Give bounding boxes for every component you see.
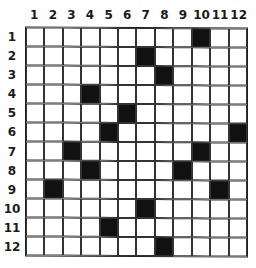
empty-cell (192, 123, 210, 142)
empty-cell (100, 237, 118, 256)
row-label: 7 (0, 142, 24, 161)
empty-cell (192, 180, 210, 199)
row-label: 8 (0, 161, 24, 180)
filled-cell (81, 85, 99, 104)
empty-cell (210, 218, 228, 237)
empty-cell (192, 237, 210, 256)
empty-cell (100, 161, 118, 180)
empty-cell (81, 218, 99, 237)
empty-cell (136, 28, 154, 47)
empty-cell (118, 142, 136, 161)
empty-cell (229, 142, 247, 161)
empty-cell (210, 85, 228, 104)
column-label: 11 (211, 8, 230, 24)
empty-cell (118, 66, 136, 85)
filled-cell (100, 218, 118, 237)
empty-cell (155, 47, 173, 66)
column-label: 1 (25, 8, 44, 24)
filled-cell (192, 142, 210, 161)
empty-cell (155, 161, 173, 180)
empty-cell (192, 218, 210, 237)
filled-cell (210, 180, 228, 199)
empty-cell (26, 198, 44, 217)
empty-cell (210, 161, 228, 180)
empty-cell (26, 122, 44, 141)
column-label: 9 (174, 8, 193, 24)
empty-cell (63, 47, 81, 66)
empty-cell (63, 123, 81, 142)
filled-cell (155, 237, 173, 256)
empty-cell (44, 218, 62, 237)
row-label: 4 (0, 85, 24, 104)
row-label: 3 (0, 65, 24, 84)
row-label: 11 (0, 219, 24, 238)
empty-cell (81, 47, 99, 66)
empty-cell (173, 218, 191, 237)
empty-cell (44, 66, 62, 85)
empty-cell (63, 28, 81, 47)
empty-cell (63, 104, 81, 123)
empty-cell (136, 180, 154, 199)
empty-cell (118, 123, 136, 142)
empty-cell (136, 85, 154, 104)
empty-cell (63, 66, 81, 85)
empty-cell (229, 218, 247, 237)
empty-cell (192, 66, 210, 85)
empty-cell (63, 180, 81, 199)
empty-cell (100, 180, 118, 199)
empty-cell (44, 237, 62, 256)
empty-cell (26, 46, 44, 65)
empty-cell (81, 237, 99, 256)
empty-cell (118, 218, 136, 237)
empty-cell (100, 47, 118, 66)
empty-cell (44, 47, 62, 66)
empty-cell (44, 161, 62, 180)
empty-cell (210, 237, 228, 256)
empty-cell (136, 218, 154, 237)
filled-cell (173, 161, 191, 180)
empty-cell (136, 237, 154, 256)
empty-cell (26, 236, 44, 255)
empty-cell (100, 142, 118, 161)
empty-cell (173, 180, 191, 199)
filled-cell (118, 104, 136, 123)
empty-cell (210, 104, 228, 123)
empty-cell (192, 161, 210, 180)
empty-cell (118, 199, 136, 218)
empty-cell (44, 199, 62, 218)
empty-cell (100, 66, 118, 85)
empty-cell (100, 28, 118, 47)
empty-cell (173, 142, 191, 161)
empty-cell (173, 199, 191, 218)
row-label: 5 (0, 104, 24, 123)
empty-cell (155, 123, 173, 142)
filled-cell (136, 199, 154, 218)
empty-cell (100, 85, 118, 104)
column-labels: 123456789101112 (25, 8, 248, 24)
empty-cell (229, 180, 247, 199)
empty-cell (229, 85, 247, 104)
empty-cell (173, 123, 191, 142)
empty-cell (118, 85, 136, 104)
empty-cell (136, 142, 154, 161)
empty-cell (26, 103, 44, 122)
empty-cell (136, 123, 154, 142)
empty-cell (229, 47, 247, 66)
empty-cell (173, 85, 191, 104)
empty-cell (210, 66, 228, 85)
empty-cell (192, 85, 210, 104)
empty-cell (118, 161, 136, 180)
empty-cell (210, 28, 228, 47)
filled-cell (136, 47, 154, 66)
column-label: 10 (192, 8, 211, 24)
row-label: 2 (0, 46, 24, 65)
empty-cell (136, 161, 154, 180)
empty-cell (100, 199, 118, 218)
empty-cell (173, 66, 191, 85)
empty-cell (210, 199, 228, 218)
empty-cell (118, 237, 136, 256)
empty-cell (26, 65, 44, 84)
filled-cell (100, 123, 118, 142)
empty-cell (26, 179, 44, 198)
grid (25, 26, 248, 257)
